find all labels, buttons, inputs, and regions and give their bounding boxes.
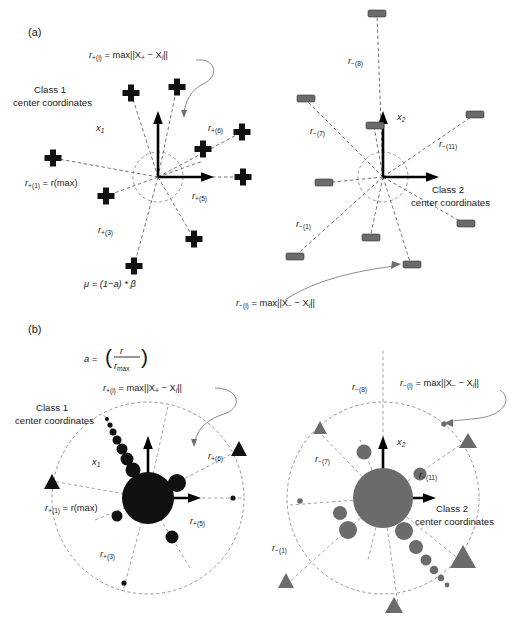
- ray-label-r-plus-6: r+(6): [208, 123, 223, 135]
- panel-a-left-class-line2: center coordinates: [13, 97, 92, 108]
- panel-a-left-rays: [53, 87, 243, 266]
- panel-b-left: r+(i) = max||X+ − Xi|| Class 1 center co…: [15, 383, 247, 594]
- panel-a-right-bar-markers: [286, 10, 484, 268]
- ray-label-r-minus-11: r−(11): [439, 139, 457, 151]
- ray-label-b-r-plus-5: r+(5): [190, 516, 205, 528]
- panel-a-right-axes: [378, 111, 439, 182]
- panel-a-right-axis-label: x2: [396, 112, 406, 123]
- panel-b-left-axis-label: x1: [91, 457, 101, 468]
- panel-b-right: r−(i) = max||X− − Xi|| Class 2 center co…: [272, 348, 506, 613]
- ray-label-b-r-plus-1: r+(1) = r(max): [45, 503, 97, 515]
- paren-open: (: [105, 345, 112, 368]
- alpha-numerator: r: [120, 346, 124, 356]
- mu-formula: μ = (1−a) * β: [83, 279, 136, 289]
- ray-label-b-r-minus-11: r−(11): [419, 470, 437, 482]
- panel-a-right-formula: r−(i) = max||X− − Xi||: [236, 298, 315, 310]
- paren-close: ): [141, 345, 148, 368]
- ray-label-r-minus-8: r−(8): [348, 56, 363, 68]
- ray-label-b-r-minus-8: r−(8): [352, 382, 367, 394]
- panel-b-left-bubbles: [105, 417, 236, 586]
- panel-a-right-class-line2: center coordinates: [411, 197, 490, 208]
- alpha-formula: a = ( r rmax ): [84, 345, 148, 372]
- panel-a-left-class-line1: Class 1: [34, 84, 66, 95]
- panel-b-right-class-line1: Class 2: [436, 503, 468, 514]
- ray-label-r-plus-3: r+(3): [98, 225, 113, 237]
- ray-label-b-r-minus-1: r−(1): [272, 543, 287, 555]
- alpha-formula-lhs: a =: [84, 354, 98, 364]
- panel-a-right: r−(i) = max||X− − Xi|| Class 2 center co…: [236, 10, 490, 310]
- panel-a-right-class-line1: Class 2: [432, 184, 464, 195]
- panel-a-letter: (a): [28, 26, 41, 38]
- formula-leader-curve: [184, 60, 214, 112]
- ray-label-r-plus-1: r+(1) = r(max): [25, 178, 77, 190]
- panel-b-right-bubbles: [297, 421, 449, 587]
- alpha-denominator: rmax: [114, 361, 130, 372]
- panel-a-left: r+(i) = max||X+ − Xi|| Class 1 center co…: [13, 50, 252, 289]
- panel-b-letter: (b): [28, 323, 41, 335]
- panel-b-left-class-line2: center coordinates: [15, 415, 94, 426]
- figure-svg: (a): [0, 0, 523, 635]
- panel-a-left-axis-label: x1: [95, 123, 105, 134]
- panel-b-right-class-line2: center coordinates: [415, 516, 494, 527]
- ray-label-b-r-minus-7: r−(7): [315, 454, 330, 466]
- ray-label-b-r-plus-3: r+(3): [100, 549, 115, 561]
- panel-b-left-formula: r+(i) = max||X+ − Xi||: [103, 383, 182, 395]
- ray-label-r-minus-7: r−(7): [310, 126, 325, 138]
- formula-leader-curve-b-left: [195, 388, 236, 441]
- formula-leader-curve-b-right: [449, 390, 506, 422]
- formula-leader-curve-right: [285, 266, 395, 300]
- panel-a-left-formula: r+(i) = max||X+ − Xi||: [89, 50, 168, 62]
- figure-container: (a): [0, 0, 523, 635]
- ray-label-b-r-plus-6: r+(6): [208, 451, 223, 463]
- ray-label-r-minus-1: r−(1): [296, 219, 311, 231]
- panel-b-right-formula: r−(i) = max||X− − Xi||: [400, 378, 479, 390]
- ray-label-r-plus-5: r+(5): [192, 191, 207, 203]
- panel-b-right-axis-label: x2: [396, 437, 406, 448]
- panel-b-left-class-line1: Class 1: [36, 402, 68, 413]
